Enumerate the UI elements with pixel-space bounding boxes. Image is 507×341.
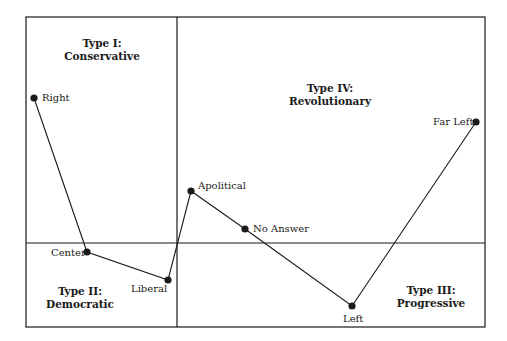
point-label-far-left: Far Left: [433, 116, 473, 128]
quadrant-ii-title: Type II:: [46, 285, 114, 298]
quadrant-label-iii: Type III: Progressive: [397, 284, 466, 310]
quadrant-iv-subtitle: Revolutionary: [289, 95, 371, 108]
point-label-left: Left: [343, 313, 363, 325]
point-marker-far-left: [472, 118, 479, 125]
quadrant-i-title: Type I:: [64, 37, 140, 50]
point-marker-right: [30, 94, 37, 101]
quadrant-ii-subtitle: Democratic: [46, 298, 114, 311]
point-label-no-answer: No Answer: [253, 223, 309, 235]
quadrant-i-subtitle: Conservative: [64, 50, 140, 63]
quadrant-iv-title: Type IV:: [289, 82, 371, 95]
point-label-apolitical: Apolitical: [198, 180, 246, 192]
point-marker-apolitical: [187, 187, 194, 194]
quadrant-iii-subtitle: Progressive: [397, 297, 466, 310]
quadrant-label-iv: Type IV: Revolutionary: [289, 82, 371, 108]
point-marker-left: [348, 302, 355, 309]
point-label-center: Center: [51, 247, 86, 259]
quadrant-label-ii: Type II: Democratic: [46, 285, 114, 311]
point-label-right: Right: [42, 92, 70, 104]
point-marker-no-answer: [241, 225, 248, 232]
data-points: [30, 94, 479, 309]
connecting-line: [34, 98, 476, 306]
quadrant-iii-title: Type III:: [397, 284, 466, 297]
outer-frame: [26, 17, 485, 327]
point-label-liberal: Liberal: [131, 283, 167, 295]
quadrant-label-i: Type I: Conservative: [64, 37, 140, 63]
